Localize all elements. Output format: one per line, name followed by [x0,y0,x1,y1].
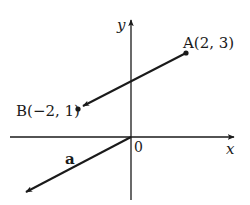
vector-a-label: a [65,150,75,168]
y-axis-label: y [116,16,126,34]
coordinate-diagram: y x 0 A(2, 3) B(−2, 1) a [0,0,250,205]
point-a-label: A(2, 3) [182,34,234,52]
vector-ab [83,53,186,106]
vector-a [26,137,131,192]
origin-label: 0 [134,139,143,155]
point-b-label: B(−2, 1) [16,102,80,120]
x-axis-label: x [226,140,235,158]
